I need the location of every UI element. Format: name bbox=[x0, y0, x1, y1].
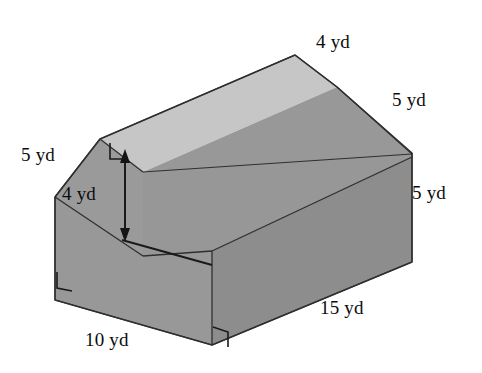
label-front-base-depth: 10 yd bbox=[85, 330, 129, 349]
label-top-ridge: 4 yd bbox=[316, 32, 350, 51]
geometry-figure: 4 yd 5 yd 5 yd 5 yd 4 yd 10 yd 15 yd bbox=[0, 0, 482, 373]
label-front-base-length: 15 yd bbox=[320, 298, 364, 317]
label-wall-height: 4 yd bbox=[62, 184, 96, 203]
label-left-roof-slope: 5 yd bbox=[21, 145, 55, 164]
label-right-wall: 5 yd bbox=[412, 183, 446, 202]
label-right-roof-slope: 5 yd bbox=[392, 90, 426, 109]
